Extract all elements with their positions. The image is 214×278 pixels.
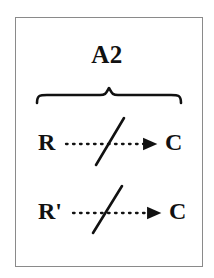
relation-2-negation-slash-icon — [93, 186, 122, 233]
relation-2-edge — [73, 186, 148, 233]
relation-1-edge — [66, 118, 144, 165]
node-relation-2-source: R' — [38, 199, 62, 223]
relation-1-negation-slash-icon — [96, 118, 124, 165]
figure-root: A2 R C R' C — [0, 0, 214, 278]
node-relation-1-source: R — [38, 130, 55, 154]
node-relation-1-target: C — [165, 130, 182, 154]
node-relation-2-target: C — [169, 199, 186, 223]
